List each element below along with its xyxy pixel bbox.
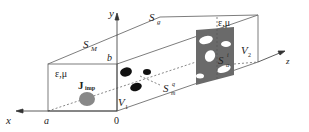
- edge-top-left: [48, 17, 160, 64]
- svg-text:S: S: [83, 38, 89, 50]
- hole: [196, 74, 204, 79]
- z-axis-label: z: [285, 56, 290, 66]
- x-axis-label: x: [5, 114, 11, 126]
- sm-label: S M: [83, 38, 98, 53]
- b-label: b: [107, 52, 112, 63]
- svg-text:J: J: [78, 79, 84, 91]
- svg-text:S: S: [149, 11, 155, 23]
- hole: [221, 41, 231, 47]
- dashed-scatterer-ref: [140, 76, 160, 85]
- edge-top-right: [117, 15, 258, 64]
- scatterer: [129, 81, 143, 93]
- jimp-label: J imp: [78, 79, 96, 91]
- medium-front-label: ε,μ: [55, 68, 67, 79]
- waveguide-diagram: y x z 0 a b S M S g S α i S m q V 1 V 2 …: [0, 0, 309, 132]
- svg-text:M: M: [90, 45, 98, 53]
- z-axis-arrow-icon: [278, 51, 285, 55]
- z-axis: [258, 52, 282, 62]
- source-blob: [79, 92, 95, 106]
- scatterer: [143, 69, 151, 75]
- a-label: a: [44, 115, 49, 126]
- origin-label: 0: [114, 115, 119, 126]
- edge-back-top: [160, 15, 258, 17]
- x-axis-arrow-icon: [16, 109, 23, 113]
- smq-label: S m q: [163, 81, 176, 96]
- svg-text:g: g: [157, 18, 161, 26]
- y-axis-arrow-icon: [115, 13, 119, 20]
- svg-text:q: q: [172, 81, 175, 87]
- svg-text:1: 1: [125, 104, 128, 110]
- svg-text:2: 2: [248, 52, 251, 58]
- sg-label: S g: [149, 11, 161, 26]
- svg-text:m: m: [171, 90, 176, 96]
- svg-text:imp: imp: [85, 85, 96, 91]
- v1-label: V 1: [118, 96, 128, 110]
- scatterers: [119, 66, 151, 93]
- svg-text:S: S: [218, 54, 224, 66]
- v2-label: V 2: [241, 44, 251, 58]
- y-axis-label: y: [108, 7, 114, 19]
- scatterer: [119, 66, 133, 78]
- axes: [16, 13, 285, 113]
- svg-text:S: S: [163, 82, 169, 94]
- medium-back-label: ε,μ: [218, 17, 230, 28]
